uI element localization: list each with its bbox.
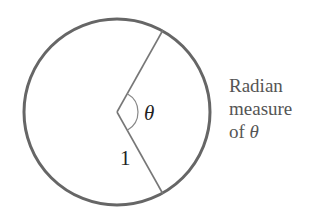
angle-label-theta: θ — [144, 101, 154, 125]
angle-arc — [127, 94, 138, 131]
caption-line-2: measure — [229, 97, 292, 120]
caption-line-1: Radian — [229, 74, 292, 97]
caption-of: of — [229, 121, 250, 142]
radius-line-upper — [117, 30, 163, 112]
caption: Radian measure of θ — [229, 74, 292, 143]
caption-theta: θ — [250, 121, 259, 142]
caption-line-3: of θ — [229, 120, 292, 143]
radius-label-one: 1 — [120, 146, 131, 170]
